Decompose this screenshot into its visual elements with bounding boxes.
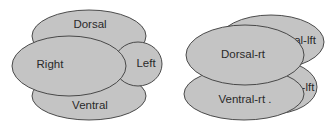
diagram-canvas: Dorsal Ventral Left Right al-lft -lft Ve… [0,0,331,126]
lobe-dorsal-label: Dorsal [73,18,106,30]
lobe-right: Right [12,36,126,96]
four-lobe-diagram: Dorsal Ventral Left Right [12,10,162,120]
lobe-right-label: Right [37,58,65,70]
lobe-dorsal-rt-label: Dorsal-rt [221,48,266,60]
lobe-dorsal-rt: Dorsal-rt [186,25,304,85]
paired-lobe-diagram: al-lft -lft Ventral-rt . Dorsal-rt [184,15,324,120]
lobe-left-label: Left [136,57,156,69]
lobe-ventral-label: Ventral [72,99,108,111]
lobe-ventral-rt-label: Ventral-rt . [218,93,271,105]
